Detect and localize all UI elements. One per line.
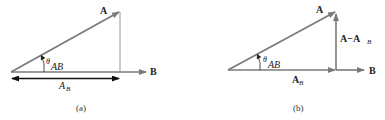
label-projection-subscript: B	[299, 79, 304, 87]
label-projection: A	[58, 80, 66, 91]
label-difference: A−A	[340, 33, 361, 44]
angle-arc	[258, 56, 260, 70]
label-theta: θ	[46, 57, 50, 66]
label-theta: θ	[263, 55, 267, 64]
label-projection-subscript: B	[66, 85, 71, 93]
panel-a: A B θ AB A B (a)	[11, 5, 157, 113]
label-theta-subscript: AB	[267, 59, 280, 70]
caption-a: (a)	[76, 103, 86, 113]
caption-b: (b)	[293, 103, 304, 113]
panel-b: A B A−A B θ AB A B (b)	[228, 4, 376, 113]
vector-a-arrow	[228, 12, 335, 70]
label-vector-a: A	[316, 4, 324, 15]
label-difference-subscript: B	[367, 38, 372, 46]
label-vector-a: A	[100, 5, 108, 16]
vector-a-arrow	[11, 12, 119, 72]
vector-projection-diagram: A B θ AB A B (a) A B A−A B θ AB A B (b)	[0, 0, 385, 120]
angle-arc	[42, 57, 44, 72]
label-vector-b: B	[369, 65, 376, 76]
label-vector-b: B	[150, 66, 157, 77]
label-theta-subscript: AB	[50, 61, 63, 72]
